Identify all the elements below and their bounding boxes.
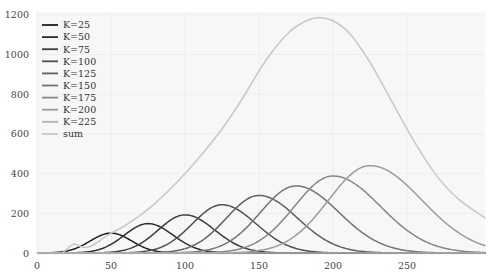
x-tick-label: 100 xyxy=(176,260,194,271)
x-tick-label: 150 xyxy=(250,260,268,271)
y-tick-label: 400 xyxy=(11,168,29,179)
x-tick-label: 50 xyxy=(105,260,117,271)
legend-label: K=25 xyxy=(63,19,90,30)
y-axis-ticks: 020040060080010001200 xyxy=(5,9,29,258)
legend-label: K=50 xyxy=(63,31,90,42)
legend-label: K=150 xyxy=(63,80,96,91)
line-chart: 020040060080010001200 050100150200250 K=… xyxy=(0,0,497,276)
x-tick-label: 0 xyxy=(34,260,40,271)
legend-label: K=200 xyxy=(63,104,96,115)
legend-label: K=100 xyxy=(63,56,96,67)
x-axis-ticks: 050100150200250 xyxy=(34,260,416,271)
legend-label: K=225 xyxy=(63,116,96,127)
y-tick-label: 800 xyxy=(11,89,29,100)
x-tick-label: 200 xyxy=(324,260,342,271)
y-tick-label: 0 xyxy=(23,248,29,259)
x-tick-label: 250 xyxy=(398,260,416,271)
y-tick-label: 1000 xyxy=(5,49,29,60)
legend-label: sum xyxy=(63,128,83,139)
legend-label: K=75 xyxy=(63,44,90,55)
legend-label: K=125 xyxy=(63,68,96,79)
y-tick-label: 1200 xyxy=(5,9,29,20)
y-tick-label: 200 xyxy=(11,208,29,219)
legend-label: K=175 xyxy=(63,92,96,103)
y-tick-label: 600 xyxy=(11,128,29,139)
